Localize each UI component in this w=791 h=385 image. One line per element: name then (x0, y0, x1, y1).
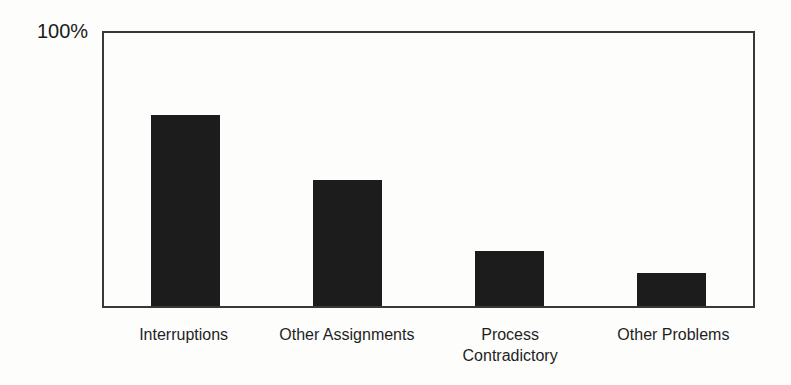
plot-area (102, 31, 755, 308)
bar-chart-figure: 100% InterruptionsOther AssignmentsProce… (0, 0, 791, 385)
x-axis-labels: InterruptionsOther AssignmentsProcess Co… (102, 324, 755, 366)
x-axis-label-other-assignments: Other Assignments (265, 324, 428, 366)
bar-other-problems (637, 273, 706, 306)
bar-interruptions (151, 115, 220, 306)
x-axis-label-process-contradictory: Process Contradictory (429, 324, 592, 366)
x-axis-label-interruptions: Interruptions (102, 324, 265, 366)
y-axis-max-label: 100% (37, 21, 88, 41)
bar-other-assignments (313, 180, 382, 306)
x-axis-label-other-problems: Other Problems (592, 324, 755, 366)
bar-process-contradictory (475, 251, 544, 306)
